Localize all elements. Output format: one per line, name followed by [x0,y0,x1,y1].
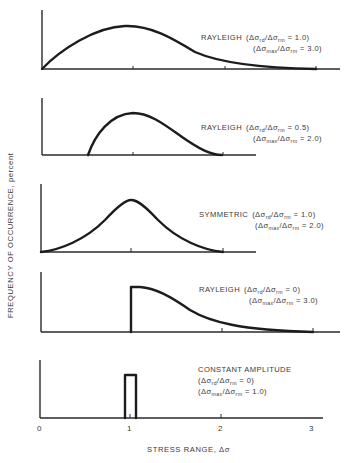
x-axis-label: STRESS RANGE, Δσ [147,445,230,454]
annotation-line-2: (Δσmax/Δσrm = 2.0) [255,221,324,231]
panel-symmetric: SYMMETRIC(Δσrd/Δσrm = 1.0) (Δσmax/Δσrm =… [41,184,324,252]
annotation-line-2: (Δσmax/Δσrm = 1.0) [198,387,267,397]
panel-rayleigh-3: RAYLEIGH(Δσrd/Δσrm = 0) (Δσmax/Δσrm = 3.… [41,272,340,332]
stress-range-distribution-chart: FREQUENCY OF OCCURRENCE, percent RAYLEIG… [0,0,351,463]
annotation-line-1: RAYLEIGH(Δσrd/Δσrm = 1.0) [201,33,310,43]
distribution-curve [41,200,223,252]
x-tick-label-2: 2 [218,424,223,433]
annotation-line-2: (Δσmax/Δσrm = 2.0) [253,134,322,144]
x-tick-label-1: 1 [127,424,132,433]
annotation-line-2: (Δσmax/Δσrm = 3.0) [249,296,318,306]
annotation-line-1: RAYLEIGH(Δσrd/Δσrm = 0.5) [201,123,310,133]
annotation-line-1: (Δσrd/Δσrm = 0) [198,376,254,386]
x-tick-label-0: 0 [37,424,42,433]
panel-rayleigh-2: RAYLEIGH(Δσrd/Δσrm = 0.5) (Δσmax/Δσrm = … [42,98,322,155]
annotation-line-1: RAYLEIGH(Δσrd/Δσrm = 0) [199,285,300,295]
constant-amplitude-bar [125,375,136,418]
annotation-line-0: CONSTANT AMPLITUDE [198,365,291,374]
y-axis-label: FREQUENCY OF OCCURRENCE, percent [6,152,15,318]
annotation-line-1: SYMMETRIC(Δσrd/Δσrm = 1.0) [199,210,316,220]
x-tick-label-3: 3 [309,424,314,433]
panel-rayleigh-1: RAYLEIGH(Δσrd/Δσrm = 1.0) (Δσmax/Δσrm = … [42,10,340,69]
panel-constant-amplitude: CONSTANT AMPLITUDE (Δσrd/Δσrm = 0) (Δσma… [37,360,323,433]
annotation-line-2: (Δσmax/Δσrm = 3.0) [253,44,322,54]
distribution-curve [88,113,222,155]
